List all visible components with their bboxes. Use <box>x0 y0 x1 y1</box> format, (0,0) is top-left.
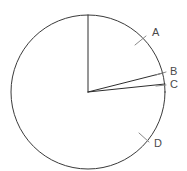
sector-label-b: B <box>170 65 177 77</box>
diagram-canvas: A B C D <box>0 0 187 171</box>
radius-line-c <box>88 84 165 92</box>
sector-label-d: D <box>154 137 162 149</box>
circle-sector-figure: A B C D <box>0 0 187 171</box>
leader-tick-b <box>156 72 166 75</box>
sector-label-a: A <box>152 26 160 38</box>
leader-tick-a <box>135 36 146 45</box>
leader-tick-d <box>139 133 149 142</box>
sector-label-c: C <box>170 78 178 90</box>
radius-line-b <box>88 73 163 92</box>
